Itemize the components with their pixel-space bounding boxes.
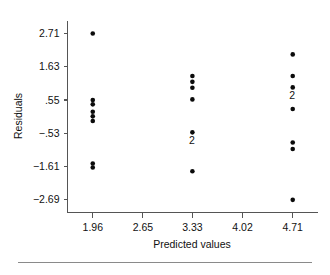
data-point (190, 85, 195, 90)
y-tick-label: −.53 (39, 127, 60, 139)
data-point (90, 165, 95, 170)
data-point (90, 31, 95, 36)
data-point (190, 74, 195, 79)
x-axis: 1.962.653.334.024.71 Predicted values (68, 213, 319, 251)
residual-scatter-figure: 2.711.63.55−.53−1.61−2.69 Residuals 1.96… (0, 0, 330, 275)
data-point (290, 107, 295, 112)
y-axis-tick-labels: 2.711.63.55−.53−1.61−2.69 (33, 27, 60, 205)
data-point (190, 97, 195, 102)
x-tick-label: 1.96 (83, 221, 104, 233)
data-point (90, 119, 95, 124)
data-point (90, 98, 95, 103)
x-axis-tick-labels: 1.962.653.334.024.71 (83, 221, 304, 233)
x-axis-title: Predicted values (153, 238, 231, 250)
data-point (90, 161, 95, 166)
data-point (290, 147, 295, 152)
data-point (190, 169, 195, 174)
y-tick-label: 1.63 (39, 60, 60, 72)
y-axis-title: Residuals (12, 93, 24, 139)
x-axis-tick-marks (93, 213, 293, 218)
data-point (90, 102, 95, 107)
x-tick-label: 2.65 (133, 221, 154, 233)
overplot-count-label: 2 (289, 89, 295, 101)
x-tick-label: 4.02 (232, 221, 253, 233)
data-point (190, 80, 195, 85)
y-axis-tick-marks (64, 33, 68, 199)
y-tick-label: 2.71 (39, 27, 60, 39)
x-tick-label: 3.33 (182, 221, 203, 233)
data-point-group (90, 31, 295, 202)
data-point (290, 198, 295, 203)
y-axis: 2.711.63.55−.53−1.61−2.69 Residuals (12, 21, 68, 213)
residuals-vs-predicted-scatter-plot: 2.711.63.55−.53−1.61−2.69 Residuals 1.96… (0, 0, 330, 275)
y-tick-label: .55 (45, 94, 60, 106)
overplot-count-label-group: 22 (189, 89, 295, 146)
y-tick-label: −1.61 (33, 160, 60, 172)
data-point (290, 74, 295, 79)
data-point (90, 114, 95, 119)
data-point (290, 140, 295, 145)
data-point (290, 52, 295, 57)
y-tick-label: −2.69 (33, 193, 60, 205)
x-tick-label: 4.71 (283, 221, 304, 233)
overplot-count-label: 2 (189, 134, 195, 146)
data-point (90, 109, 95, 114)
